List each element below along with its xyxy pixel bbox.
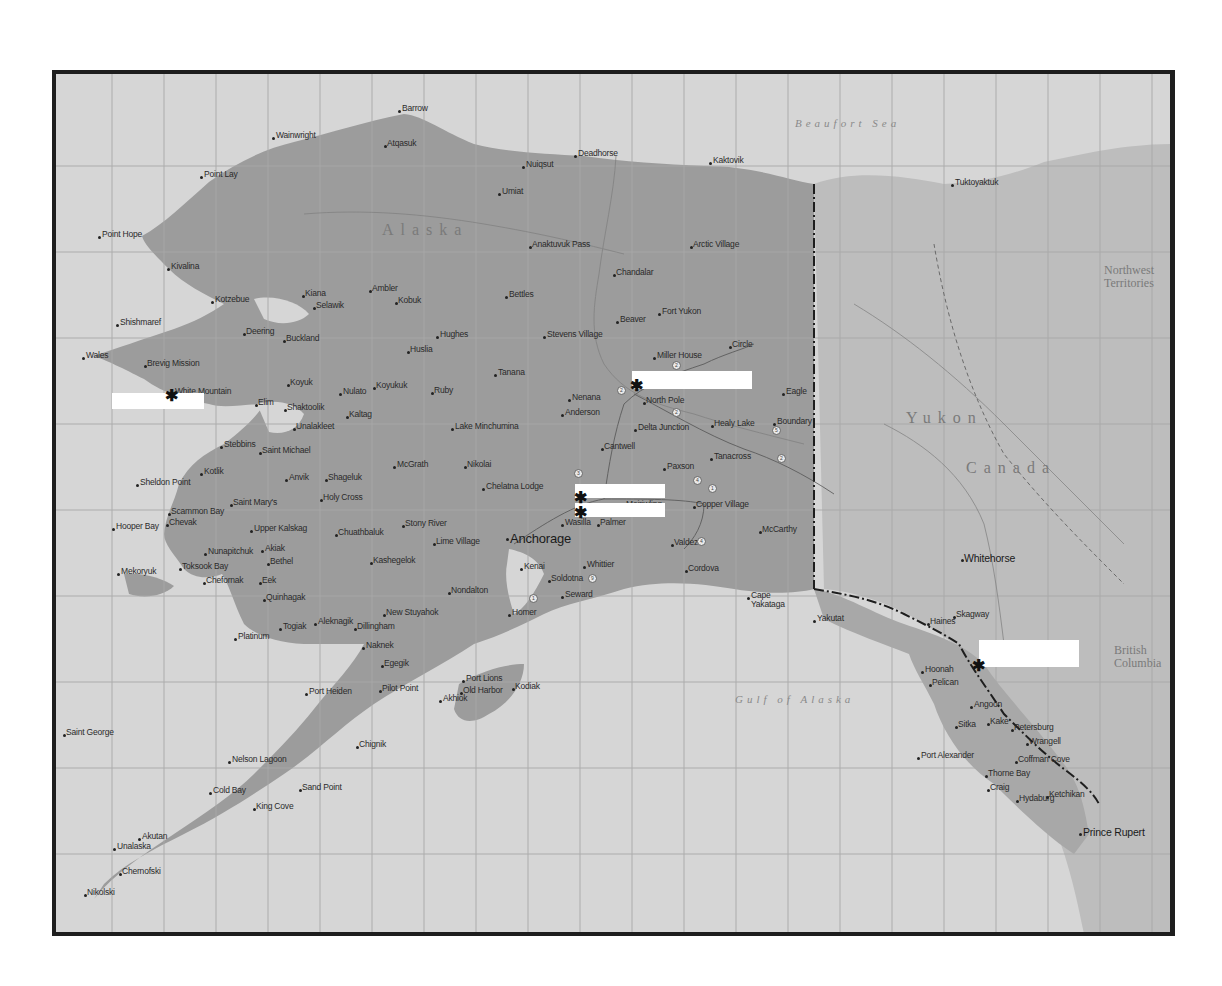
place-dot-port-heiden [305,693,308,696]
place-label-arctic-village: Arctic Village [693,240,739,249]
place-label-thorne-bay: Thorne Bay [988,769,1030,778]
place-label-pelican: Pelican [932,678,958,687]
place-dot-kaktovik [709,162,712,165]
redaction-talkeetna-upper [575,484,665,498]
place-label-paxson: Paxson [667,462,694,471]
region-label-northwest-territories: Northwest Territories [1104,264,1154,290]
place-label-nikolai: Nikolai [467,460,491,469]
place-label-kotlik: Kotlik [204,467,224,476]
place-dot-stebbins [220,446,223,449]
place-label-kotzebue: Kotzebue [215,295,249,304]
place-dot-anchorage [506,538,509,541]
highway-shield-icon: 2 [672,361,681,370]
place-label-saint-mary-s: Saint Mary's [233,498,277,507]
place-label-scammon-bay: Scammon Bay [171,507,224,516]
place-label-akutan: Akutan [142,832,167,841]
place-dot-chelatna-lodge [482,488,485,491]
place-dot-hooper-bay [112,528,115,531]
place-label-bethel: Bethel [270,557,293,566]
highway-shield-icon: 9 [588,574,597,583]
highway-shield-icon: 2 [777,454,786,463]
place-label-shishmaref: Shishmaref [120,318,161,327]
place-label-hydaburg: Hydaburg [1019,794,1054,803]
highway-shield-icon: 1 [529,594,538,603]
place-label-quinhagak: Quinhagak [266,593,305,602]
highway-shield-icon: 5 [772,426,781,435]
place-dot-eagle [782,393,785,396]
place-dot-point-hope [98,236,101,239]
place-label-sheldon-point: Sheldon Point [140,478,190,487]
place-label-tanana: Tanana [498,368,525,377]
place-label-circle: Circle [732,340,753,349]
place-label-chelatna-lodge: Chelatna Lodge [486,482,543,491]
place-label-old-harbor: Old Harbor [463,686,503,695]
place-label-dillingham: Dillingham [357,622,395,631]
place-dot-mcgrath [393,466,396,469]
place-label-north-pole: North Pole [646,396,684,405]
place-dot-naknek [362,647,365,650]
place-dot-platinum [234,638,237,641]
place-dot-nuiqsut [522,166,525,169]
place-label-point-hope: Point Hope [102,230,142,239]
place-dot-anvik [285,479,288,482]
place-dot-umiat [498,193,501,196]
place-label-point-lay: Point Lay [204,170,238,179]
place-label-boundary: Boundary [777,417,812,426]
place-label-kivalina: Kivalina [171,262,199,271]
place-label-beaver: Beaver [620,315,646,324]
place-dot-homer [508,614,511,617]
place-label-upper-kalskag: Upper Kalskag [254,524,307,533]
place-dot-upper-kalskag [250,530,253,533]
place-label-wales: Wales [86,351,108,360]
place-label-new-stuyahok: New Stuyahok [386,608,438,617]
redaction-seward-peninsula [112,393,204,409]
place-label-atqasuk: Atqasuk [387,139,416,148]
place-label-huslia: Huslia [410,345,432,354]
place-label-saint-george: Saint George [66,728,114,737]
place-label-egegik: Egegik [384,659,409,668]
place-label-port-heiden: Port Heiden [309,687,352,696]
place-label-nikolski: Nikolski [87,888,115,897]
place-label-seward: Seward [565,590,593,599]
region-label-canada: Canada [966,460,1056,476]
place-dot-wales [82,357,85,360]
place-label-platinum: Platinum [238,632,269,641]
place-label-bettles: Bettles [509,290,534,299]
place-label-aleknagik: Aleknagik [318,617,353,626]
place-label-naknek: Naknek [366,641,394,650]
place-label-chuathbaluk: Chuathbaluk [338,528,384,537]
place-label-anaktuvuk-pass: Anaktuvuk Pass [532,240,590,249]
highway-shield-icon: 3 [574,469,583,478]
place-label-barrow: Barrow [402,104,428,113]
highway-shield-icon: 4 [693,476,702,485]
region-label-yukon: Yukon [906,410,983,426]
highway-shield-icon: 4 [697,537,706,546]
place-dot-beaver [616,321,619,324]
place-dot-port-lions [462,680,465,683]
place-label-hoonah: Hoonah [925,665,954,674]
place-label-port-lions: Port Lions [466,674,502,683]
region-label-beaufort-sea: Beaufort Sea [795,118,900,129]
place-label-kaltag: Kaltag [349,410,372,419]
place-dot-nulato [339,393,342,396]
place-dot-anderson [561,414,564,417]
place-label-anvik: Anvik [289,473,309,482]
place-dot-kotlik [200,473,203,476]
place-dot-angoon [970,706,973,709]
place-label-stebbins: Stebbins [224,440,255,449]
place-label-mcgrath: McGrath [397,460,428,469]
place-dot-nunapitchuk [204,553,207,556]
place-label-elim: Elim [258,398,274,407]
place-label-palmer: Palmer [600,518,626,527]
place-label-chernofski: Chernofski [122,867,161,876]
place-label-healy-lake: Healy Lake [714,419,755,428]
place-label-tuktoyaktuk: Tuktoyaktuk [955,178,998,187]
place-label-stony-river: Stony River [405,519,447,528]
place-dot-paxson [663,468,666,471]
place-label-ruby: Ruby [434,386,453,395]
place-label-miller-house: Miller House [657,351,702,360]
place-label-petersburg: Petersburg [1014,723,1054,732]
place-dot-deadhorse [574,155,577,158]
place-dot-barrow [398,110,401,113]
place-label-port-alexander: Port Alexander [921,751,974,760]
